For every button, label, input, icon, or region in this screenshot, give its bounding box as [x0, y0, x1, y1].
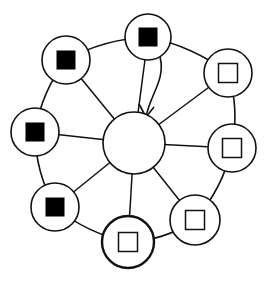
node-n3	[208, 124, 256, 172]
node-circle	[208, 124, 256, 172]
node-n7	[11, 108, 59, 156]
node-n8	[42, 36, 90, 84]
filled-square-icon	[46, 198, 65, 217]
hub-node	[103, 112, 165, 174]
node-circle	[102, 216, 154, 268]
node-n4	[170, 195, 220, 245]
filled-square-icon	[57, 51, 76, 70]
node-n6	[31, 183, 79, 231]
ring-network-diagram	[0, 0, 275, 282]
node-circle	[204, 49, 252, 97]
filled-square-icon	[26, 123, 45, 142]
node-n1	[125, 14, 171, 60]
node-n5	[102, 216, 154, 268]
filled-square-icon	[139, 28, 158, 47]
node-circle	[170, 195, 220, 245]
node-n2	[204, 49, 252, 97]
nodes	[11, 14, 256, 268]
arrow-n1-to-hub	[139, 57, 161, 117]
